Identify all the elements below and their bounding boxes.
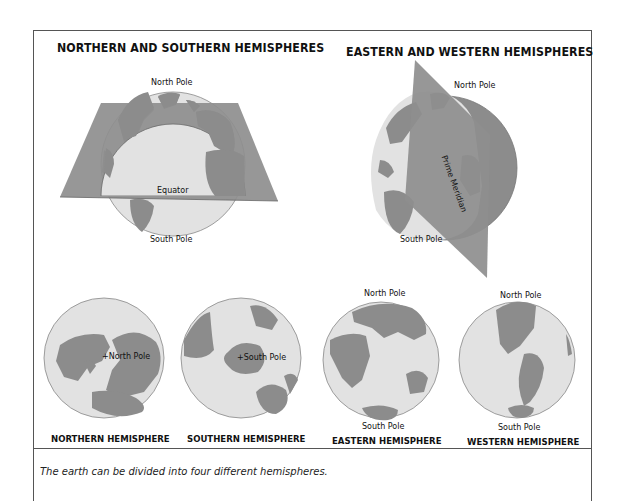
label-north-pole: North Pole <box>151 78 193 87</box>
label-south-pole: South Pole <box>400 235 442 244</box>
label-south-pole: South Pole <box>498 423 540 432</box>
hemisphere-name-southern: SOUTHERN HEMISPHERE <box>187 433 305 444</box>
eastern-hemisphere-globe <box>323 302 439 420</box>
western-hemisphere-globe <box>459 302 575 418</box>
label-south-pole: South Pole <box>150 235 192 244</box>
hemisphere-name-northern: NORTHERN HEMISPHERE <box>51 433 170 444</box>
hemisphere-name-western: WESTERN HEMISPHERE <box>467 436 579 447</box>
label-north-pole: North Pole <box>500 291 542 300</box>
label-north-pole-marker: +North Pole <box>102 352 150 361</box>
label-equator: Equator <box>157 186 188 195</box>
figure-caption: The earth can be divided into four diffe… <box>40 466 328 477</box>
label-north-pole: North Pole <box>454 81 496 90</box>
panel-title-east-west: EASTERN AND WESTERN HEMISPHERES <box>346 45 593 59</box>
north-south-globe <box>60 92 278 236</box>
label-south-pole-marker: +South Pole <box>237 353 286 362</box>
label-north-pole: North Pole <box>364 289 406 298</box>
panel-title-north-south: NORTHERN AND SOUTHERN HEMISPHERES <box>57 41 324 55</box>
hemisphere-name-eastern: EASTERN HEMISPHERE <box>332 435 442 446</box>
label-south-pole: South Pole <box>362 422 404 431</box>
